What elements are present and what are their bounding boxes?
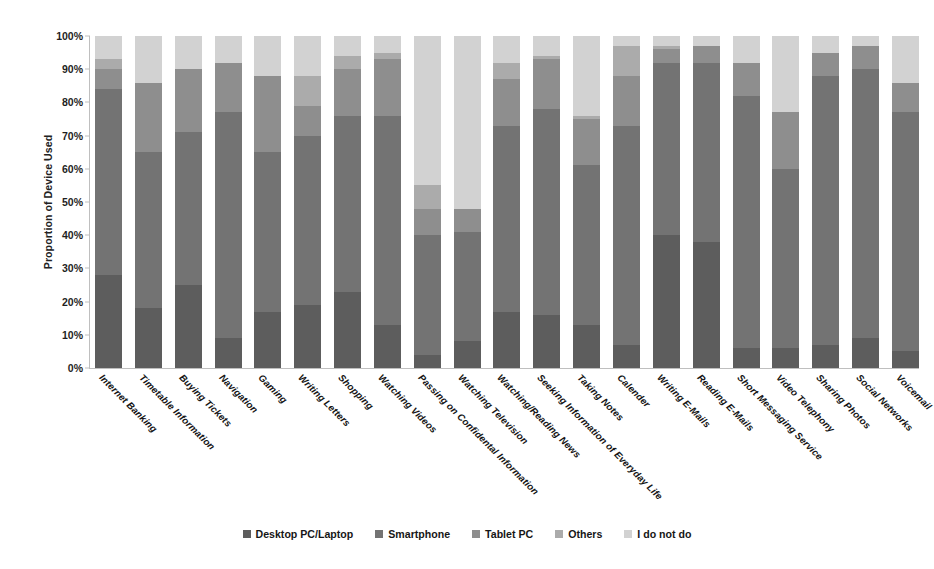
bar-segment xyxy=(135,83,162,153)
bar-segment xyxy=(812,76,839,345)
bar-segment xyxy=(653,49,680,62)
bar-segment xyxy=(454,341,481,368)
y-tick-label: 0% xyxy=(68,362,83,374)
bar-segment xyxy=(852,46,879,69)
legend-item[interactable]: I do not do xyxy=(624,528,691,540)
bar-segment xyxy=(613,46,640,76)
bar-segment xyxy=(493,63,520,80)
x-axis-label: Timetable Information xyxy=(137,372,217,452)
bar-segment xyxy=(254,36,281,76)
bar-column[interactable] xyxy=(653,36,680,368)
bar-segment xyxy=(175,36,202,69)
bar-segment xyxy=(414,185,441,208)
bar-column[interactable] xyxy=(95,36,122,368)
bar-segment xyxy=(693,242,720,368)
bar-segment xyxy=(493,79,520,125)
bar-segment xyxy=(573,165,600,324)
bar-segment xyxy=(135,36,162,82)
bar-segment xyxy=(215,63,242,113)
bar-column[interactable] xyxy=(374,36,401,368)
bar-segment xyxy=(215,338,242,368)
y-tick-mark xyxy=(85,36,90,37)
bar-column[interactable] xyxy=(454,36,481,368)
legend-swatch-icon xyxy=(555,530,563,538)
bar-column[interactable] xyxy=(493,36,520,368)
bar-column[interactable] xyxy=(294,36,321,368)
legend-item[interactable]: Desktop PC/Laptop xyxy=(243,528,354,540)
y-tick-label: 100% xyxy=(56,30,83,42)
bar-column[interactable] xyxy=(852,36,879,368)
bar-segment xyxy=(892,112,919,351)
bar-segment xyxy=(493,126,520,312)
bar-segment xyxy=(812,345,839,368)
bar-segment xyxy=(812,53,839,76)
bar-column[interactable] xyxy=(892,36,919,368)
y-axis-title: Proportion of Device Used xyxy=(42,82,54,322)
bar-segment xyxy=(254,312,281,368)
bar-segment xyxy=(533,109,560,315)
bar-segment xyxy=(454,232,481,342)
y-tick-label: 60% xyxy=(62,163,83,175)
bar-segment xyxy=(414,235,441,355)
bar-segment xyxy=(733,36,760,63)
bar-segment xyxy=(533,36,560,56)
y-tick-mark xyxy=(85,301,90,302)
bar-segment xyxy=(374,325,401,368)
bar-column[interactable] xyxy=(215,36,242,368)
bar-column[interactable] xyxy=(573,36,600,368)
bar-segment xyxy=(533,315,560,368)
bar-segment xyxy=(454,36,481,209)
legend-swatch-icon xyxy=(243,530,251,538)
y-tick-label: 50% xyxy=(62,196,83,208)
x-axis-label: Navigation xyxy=(217,372,260,415)
legend-item[interactable]: Smartphone xyxy=(375,528,450,540)
bar-segment xyxy=(215,36,242,63)
bar-column[interactable] xyxy=(533,36,560,368)
bar-segment xyxy=(892,83,919,113)
bar-column[interactable] xyxy=(613,36,640,368)
y-tick-mark xyxy=(85,168,90,169)
legend-label: Tablet PC xyxy=(485,528,533,540)
legend-label: I do not do xyxy=(637,528,691,540)
bar-segment xyxy=(95,89,122,275)
bar-column[interactable] xyxy=(812,36,839,368)
bar-segment xyxy=(334,36,361,56)
legend-item[interactable]: Tablet PC xyxy=(472,528,533,540)
bar-segment xyxy=(733,63,760,96)
bar-segment xyxy=(852,36,879,46)
bar-column[interactable] xyxy=(175,36,202,368)
bar-segment xyxy=(573,36,600,116)
stacked-bar-chart: Proportion of Device Used 0%10%20%30%40%… xyxy=(0,0,934,569)
bar-segment xyxy=(95,275,122,368)
bar-segment xyxy=(374,53,401,60)
legend-item[interactable]: Others xyxy=(555,528,602,540)
bar-segment xyxy=(533,59,560,109)
bar-segment xyxy=(693,36,720,46)
bar-segment xyxy=(812,36,839,53)
bar-segment xyxy=(334,56,361,69)
bar-segment xyxy=(414,209,441,236)
bar-segment xyxy=(454,209,481,232)
bar-column[interactable] xyxy=(334,36,361,368)
bar-segment xyxy=(613,36,640,46)
bar-column[interactable] xyxy=(414,36,441,368)
bar-segment xyxy=(493,36,520,63)
bar-segment xyxy=(175,132,202,285)
bar-segment xyxy=(374,116,401,325)
bar-segment xyxy=(733,348,760,368)
bar-segment xyxy=(613,345,640,368)
bar-segment xyxy=(294,76,321,106)
x-axis-label: Watching Television xyxy=(456,372,530,446)
bar-segment xyxy=(733,96,760,348)
bar-segment xyxy=(175,69,202,132)
bar-column[interactable] xyxy=(733,36,760,368)
bar-column[interactable] xyxy=(254,36,281,368)
bar-segment xyxy=(573,119,600,165)
bar-segment xyxy=(772,112,799,168)
bar-column[interactable] xyxy=(772,36,799,368)
bar-segment xyxy=(294,106,321,136)
bar-segment xyxy=(294,136,321,305)
bar-column[interactable] xyxy=(135,36,162,368)
bar-segment xyxy=(693,46,720,63)
bar-column[interactable] xyxy=(693,36,720,368)
